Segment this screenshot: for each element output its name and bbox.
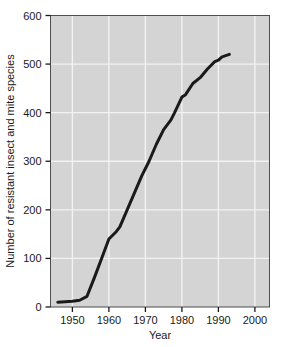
x-tick-label: 1970 (133, 314, 157, 326)
figure-container: 0100200300400500600 19501960197019801990… (0, 0, 284, 347)
y-axis-title: Number of resistant insect and mite spec… (4, 54, 16, 268)
x-tick-label: 1950 (60, 314, 84, 326)
y-tick-label: 400 (23, 107, 41, 119)
y-tick-label: 0 (35, 301, 41, 313)
y-tick-label: 100 (23, 252, 41, 264)
resistant-species-line-chart: 0100200300400500600 19501960197019801990… (0, 0, 284, 347)
x-tick-label: 1980 (170, 314, 194, 326)
y-tick-label: 600 (23, 10, 41, 22)
x-tick-label: 2000 (243, 314, 267, 326)
y-tick-label: 300 (23, 155, 41, 167)
y-tick-label: 200 (23, 204, 41, 216)
y-tick-label: 500 (23, 58, 41, 70)
x-tick-label: 1990 (206, 314, 230, 326)
x-axis-title: Year (149, 329, 172, 341)
x-tick-label: 1960 (97, 314, 121, 326)
